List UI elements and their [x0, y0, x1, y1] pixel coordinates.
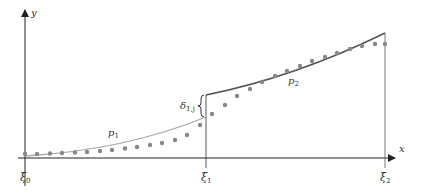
- data-point: [110, 148, 114, 152]
- p1-label: p1: [108, 127, 119, 140]
- data-point: [85, 150, 89, 154]
- jump-brace: [198, 95, 204, 117]
- data-point: [35, 152, 39, 156]
- data-point: [123, 146, 127, 150]
- data-point: [310, 59, 314, 63]
- data-point: [148, 143, 152, 147]
- data-point: [160, 141, 164, 145]
- data-point: [135, 145, 139, 149]
- knot-label-xi1: ξ1: [201, 171, 212, 185]
- data-point: [298, 64, 302, 68]
- y-axis-label: y: [30, 7, 37, 18]
- data-point: [348, 47, 352, 51]
- spline-diagram: y x p1 p2 δ1,j ξ0 ξ1 ξ2: [0, 0, 425, 194]
- data-point: [235, 94, 239, 98]
- knot-label-xi2: ξ2: [380, 171, 391, 185]
- data-points: [23, 42, 387, 156]
- data-point: [223, 103, 227, 107]
- data-point: [273, 74, 277, 78]
- data-point: [60, 151, 64, 155]
- data-point: [185, 133, 189, 137]
- data-point: [173, 138, 177, 142]
- x-axis-label: x: [399, 143, 405, 154]
- data-point: [260, 80, 264, 84]
- data-point: [285, 69, 289, 73]
- data-point: [360, 44, 364, 48]
- data-point: [373, 42, 377, 46]
- data-point: [48, 151, 52, 155]
- knot-label-xi0: ξ0: [20, 171, 31, 185]
- data-point: [98, 149, 102, 153]
- data-point: [383, 42, 387, 46]
- data-point: [73, 150, 77, 154]
- jump-label: δ1,j: [180, 100, 195, 113]
- data-point: [198, 123, 202, 127]
- p2-label: p2: [288, 75, 299, 88]
- data-point: [323, 55, 327, 59]
- data-point: [210, 112, 214, 116]
- data-point: [335, 51, 339, 55]
- data-point: [23, 152, 27, 156]
- data-point: [248, 87, 252, 91]
